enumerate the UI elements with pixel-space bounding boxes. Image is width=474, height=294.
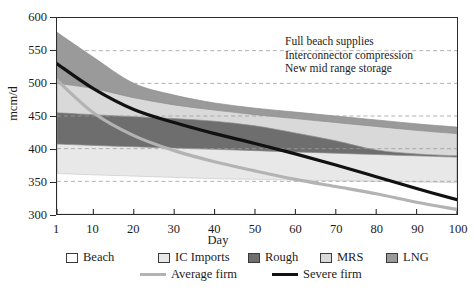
legend-swatch-icon <box>158 253 170 263</box>
legend-label: Rough <box>265 250 298 265</box>
legend-swatch-icon <box>386 253 398 263</box>
legend: BeachIC ImportsRoughMRSLNG Average firmS… <box>0 250 474 284</box>
legend-item-ic-imports[interactable]: IC Imports <box>158 250 230 265</box>
legend-swatch-icon <box>66 253 78 263</box>
y-tick-label-600: 600 <box>28 11 47 24</box>
legend-item-beach[interactable]: Beach <box>66 250 114 265</box>
annotation-line-1: Full beach supplies <box>285 35 413 49</box>
y-axis: mcm/d 300350400450500550600 <box>0 0 56 232</box>
legend-item-lng[interactable]: LNG <box>386 250 429 265</box>
y-tick-label-450: 450 <box>28 110 47 123</box>
legend-label: LNG <box>403 250 429 265</box>
y-tick-label-500: 500 <box>28 77 47 90</box>
legend-swatch-icon <box>320 253 332 263</box>
legend-label: Average firm <box>171 267 237 282</box>
legend-item-mrs[interactable]: MRS <box>320 250 363 265</box>
legend-item-severe-firm[interactable]: Severe firm <box>272 267 362 282</box>
y-axis-title: mcm/d <box>6 69 21 139</box>
chart-root: mcm/d 300350400450500550600 Full beach s… <box>0 0 474 294</box>
legend-label: IC Imports <box>175 250 230 265</box>
legend-line-icon <box>272 273 298 276</box>
legend-label: MRS <box>337 250 363 265</box>
curve-severe-firm <box>57 64 457 200</box>
legend-line-icon <box>140 273 166 276</box>
y-tick-label-550: 550 <box>28 44 47 57</box>
annotation-line-2: Interconnector compression <box>285 49 413 63</box>
legend-label: Beach <box>83 250 114 265</box>
legend-swatch-icon <box>248 253 260 263</box>
legend-swatch-row: BeachIC ImportsRoughMRSLNG <box>0 250 474 267</box>
legend-line-row: Average firmSevere firm <box>0 267 474 284</box>
y-tick-label-400: 400 <box>28 143 47 156</box>
y-tick-label-350: 350 <box>28 176 47 189</box>
legend-label: Severe firm <box>303 267 362 282</box>
legend-item-rough[interactable]: Rough <box>248 250 298 265</box>
annotation-block: Full beach supplies Interconnector compr… <box>285 35 413 76</box>
annotation-line-3: New mid range storage <box>285 62 413 76</box>
x-axis-title: Day <box>0 233 474 248</box>
legend-item-average-firm[interactable]: Average firm <box>140 267 237 282</box>
x-axis-title-text: Day <box>208 233 229 247</box>
